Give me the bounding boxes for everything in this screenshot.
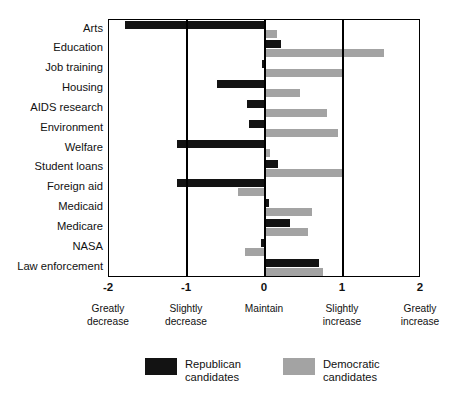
category-label-medicaid: Medicaid: [0, 200, 103, 212]
legend-item-democratic[interactable]: Democraticcandidates: [283, 358, 380, 383]
chart-legend: RepublicancandidatesDemocraticcandidates: [0, 358, 452, 398]
horizontal-bar-chart: ArtsEducationJob trainingHousingAIDS res…: [0, 0, 452, 410]
bar-housing-democratic: [265, 89, 300, 97]
anchor-line-2: decrease: [87, 316, 129, 329]
gridline-1: [342, 20, 343, 276]
legend-label-democratic: Democraticcandidates: [323, 358, 380, 383]
bar-job-training-democratic: [265, 69, 343, 77]
bar-nasa-democratic: [245, 248, 265, 256]
axis-tick-0: 0: [261, 281, 267, 293]
anchor-line-1: Slightly: [165, 303, 207, 316]
axis-tick-2: 2: [417, 281, 423, 293]
anchor-line-2: increase: [323, 316, 362, 329]
category-label-law-enforcement: Law enforcement: [0, 260, 103, 272]
bar-foreign-aid-republican: [177, 179, 265, 187]
scale-anchor-greatly-decrease: Greatlydecrease: [87, 303, 129, 328]
bar-aids-research-republican: [247, 100, 265, 108]
bar-education-democratic: [265, 49, 384, 57]
category-axis-labels: ArtsEducationJob trainingHousingAIDS res…: [0, 18, 103, 277]
anchor-line-1: Maintain: [245, 303, 284, 316]
gridline-neg1: [186, 20, 187, 276]
legend-label-line-2: candidates: [323, 371, 380, 384]
legend-label-line-1: Republican: [185, 358, 241, 371]
category-label-job-training: Job training: [0, 61, 103, 73]
category-label-student-loans: Student loans: [0, 160, 103, 172]
bar-welfare-democratic: [265, 149, 270, 157]
anchor-line-2: decrease: [165, 316, 207, 329]
category-label-environment: Environment: [0, 121, 103, 133]
legend-label-line-1: Democratic: [323, 358, 380, 371]
legend-label-line-2: candidates: [185, 371, 241, 384]
bar-environment-democratic: [265, 129, 338, 137]
category-label-education: Education: [0, 41, 103, 53]
bar-education-republican: [265, 40, 281, 48]
bar-arts-democratic: [265, 30, 277, 38]
scale-anchor-labels: GreatlydecreaseSlightlydecreaseMaintainS…: [108, 303, 420, 343]
bar-medicaid-republican: [265, 199, 269, 207]
category-label-nasa: NASA: [0, 240, 103, 252]
gridline-0: [264, 20, 265, 276]
value-axis-ticks: -2-1012: [108, 281, 420, 297]
scale-anchor-slightly-decrease: Slightlydecrease: [165, 303, 207, 328]
scale-anchor-greatly-increase: Greatlyincrease: [401, 303, 440, 328]
category-label-foreign-aid: Foreign aid: [0, 180, 103, 192]
axis-tick-neg2: -2: [103, 281, 113, 293]
anchor-line-2: increase: [401, 316, 440, 329]
bar-aids-research-democratic: [265, 109, 327, 117]
bar-arts-republican: [125, 21, 265, 29]
bar-law-enforcement-republican: [265, 259, 319, 267]
scale-anchor-slightly-increase: Slightlyincrease: [323, 303, 362, 328]
scale-anchor-maintain: Maintain: [245, 303, 284, 316]
category-label-medicare: Medicare: [0, 220, 103, 232]
legend-label-republican: Republicancandidates: [185, 358, 241, 383]
anchor-line-1: Slightly: [323, 303, 362, 316]
category-label-housing: Housing: [0, 81, 103, 93]
anchor-line-1: Greatly: [87, 303, 129, 316]
bar-student-loans-democratic: [265, 169, 343, 177]
anchor-line-1: Greatly: [401, 303, 440, 316]
category-label-aids-research: AIDS research: [0, 101, 103, 113]
bar-law-enforcement-democratic: [265, 268, 323, 276]
legend-item-republican[interactable]: Republicancandidates: [145, 358, 241, 383]
bar-medicare-democratic: [265, 228, 308, 236]
bar-student-loans-republican: [265, 160, 278, 168]
plot-area: [108, 19, 420, 277]
category-label-welfare: Welfare: [0, 141, 103, 153]
bar-medicare-republican: [265, 219, 290, 227]
bar-foreign-aid-democratic: [238, 188, 265, 196]
bar-environment-republican: [249, 120, 265, 128]
bar-housing-republican: [217, 80, 265, 88]
axis-tick-1: 1: [339, 281, 345, 293]
bar-welfare-republican: [177, 140, 265, 148]
legend-swatch-democratic: [283, 358, 315, 375]
axis-tick-neg1: -1: [181, 281, 191, 293]
legend-swatch-republican: [145, 358, 177, 375]
category-label-arts: Arts: [0, 22, 103, 34]
bar-medicaid-democratic: [265, 208, 312, 216]
